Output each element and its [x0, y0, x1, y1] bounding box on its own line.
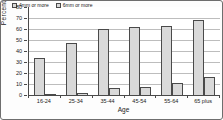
- bar-4mm-or-more-65-plus: [193, 20, 204, 95]
- y-axis-tick: [24, 7, 27, 8]
- x-tick-label: 35-44: [93, 98, 123, 104]
- x-tick-label: 16-24: [29, 98, 59, 104]
- gridline: [29, 40, 220, 41]
- y-tick-label: 40: [10, 49, 22, 54]
- x-axis-tick: [219, 96, 220, 98]
- x-axis-tick: [124, 96, 125, 98]
- x-tick-label: 25-34: [61, 98, 91, 104]
- y-axis-tick: [24, 95, 27, 96]
- gridline: [29, 73, 220, 74]
- bar-6mm-or-more-35-44: [109, 88, 120, 95]
- y-tick-label: 60: [10, 27, 22, 32]
- y-tick-label: 20: [10, 71, 22, 76]
- x-axis-tick: [28, 96, 29, 98]
- bar-6mm-or-more-16-24: [45, 94, 56, 95]
- legend-item-6mm: 6mm or more: [56, 2, 93, 8]
- x-axis-tick: [60, 96, 61, 98]
- bar-6mm-or-more-45-54: [140, 87, 151, 95]
- y-tick-label: 80: [10, 5, 22, 10]
- x-tick-label: 55-64: [156, 98, 186, 104]
- y-axis-tick: [24, 40, 27, 41]
- gridline: [29, 62, 220, 63]
- y-axis-tick: [24, 29, 27, 30]
- y-axis-tick: [24, 62, 27, 63]
- y-tick-label: 50: [10, 38, 22, 43]
- y-axis-tick: [24, 51, 27, 52]
- y-axis-tick: [24, 84, 27, 85]
- bar-4mm-or-more-25-34: [66, 43, 77, 95]
- bar-chart: Percentage 4mm or more 6mm or more Age 0…: [0, 0, 223, 120]
- y-tick-label: 30: [10, 60, 22, 65]
- plot-area: [28, 7, 220, 96]
- bar-4mm-or-more-35-44: [98, 29, 109, 95]
- y-axis-tick: [24, 73, 27, 74]
- y-tick-label: 0: [10, 93, 22, 98]
- y-tick-label: 10: [10, 82, 22, 87]
- x-axis-tick: [155, 96, 156, 98]
- bar-6mm-or-more-65-plus: [204, 77, 215, 95]
- bar-4mm-or-more-55-64: [161, 26, 172, 95]
- y-axis-tick: [24, 18, 27, 19]
- x-tick-label: 45-54: [124, 98, 154, 104]
- gridline: [29, 18, 220, 19]
- bar-6mm-or-more-55-64: [172, 83, 183, 95]
- legend-label: 6mm or more: [63, 2, 93, 8]
- gridline: [29, 51, 220, 52]
- x-axis-tick: [92, 96, 93, 98]
- gridline: [29, 29, 220, 30]
- y-axis-title: Percentage: [0, 0, 7, 51]
- x-axis-title: Age: [28, 106, 219, 113]
- bar-4mm-or-more-16-24: [34, 58, 45, 95]
- gridline: [29, 84, 220, 85]
- y-tick-label: 70: [10, 16, 22, 21]
- legend-swatch-icon: [56, 3, 61, 8]
- bar-4mm-or-more-45-54: [129, 27, 140, 95]
- x-tick-label: 65 plus: [188, 98, 218, 104]
- x-axis-tick: [187, 96, 188, 98]
- bar-6mm-or-more-25-34: [77, 93, 88, 95]
